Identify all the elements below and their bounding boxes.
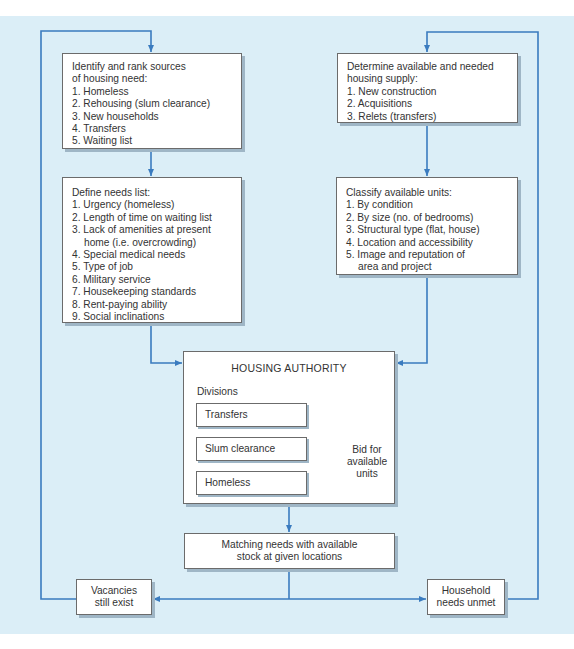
- classify-item: 2. By size (no. of bedrooms): [346, 212, 508, 224]
- unmet-line: Household: [428, 585, 504, 597]
- needs-heading: Define needs list:: [72, 187, 232, 199]
- needs-item: 7. Housekeeping standards: [72, 286, 232, 298]
- sources-item: 3. New households: [72, 111, 232, 123]
- needs-item: 5. Type of job: [72, 261, 232, 273]
- bid-label-line: units: [341, 468, 393, 480]
- matching-box: Matching needs with available stock at g…: [184, 533, 395, 569]
- housing-authority-title: HOUSING AUTHORITY: [184, 362, 394, 374]
- supply-item: 2. Acquisitions: [347, 98, 508, 110]
- classify-item: 3. Structural type (flat, house): [346, 224, 508, 236]
- vacancies-line: still exist: [77, 597, 151, 609]
- divisions-label: Divisions: [197, 386, 238, 398]
- needs-unmet-box: Household needs unmet: [427, 579, 505, 615]
- division-transfers: Transfers: [196, 403, 307, 427]
- housing-authority-box: HOUSING AUTHORITY Divisions Transfers Sl…: [183, 351, 395, 504]
- classify-heading: Classify available units:: [346, 187, 508, 199]
- bid-label: Bid for available units: [341, 444, 393, 480]
- classify-item: 4. Location and accessibility: [346, 237, 508, 249]
- matching-line: stock at given locations: [185, 551, 394, 563]
- vacancies-line: Vacancies: [77, 585, 151, 597]
- sources-item: 4. Transfers: [72, 123, 232, 135]
- classify-item: 5. Image and reputation of: [346, 249, 508, 261]
- needs-item: 4. Special medical needs: [72, 249, 232, 261]
- bid-label-line: available: [341, 456, 393, 468]
- supply-heading-1: Determine available and needed: [347, 61, 508, 73]
- classify-item: 1. By condition: [346, 199, 508, 211]
- needs-item-continued: home (i.e. overcrowding): [72, 237, 232, 249]
- needs-item: 1. Urgency (homeless): [72, 199, 232, 211]
- supply-heading-2: housing supply:: [347, 73, 508, 85]
- classify-units-box: Classify available units: 1. By conditio…: [336, 177, 518, 275]
- needs-item: 2. Length of time on waiting list: [72, 212, 232, 224]
- sources-item: 5. Waiting list: [72, 135, 232, 147]
- division-slum-clearance: Slum clearance: [196, 437, 307, 461]
- supply-item: 1. New construction: [347, 86, 508, 98]
- housing-supply-box: Determine available and needed housing s…: [337, 53, 518, 123]
- housing-need-sources-box: Identify and rank sources of housing nee…: [62, 53, 242, 149]
- sources-heading-2: of housing need:: [72, 73, 232, 85]
- needs-item: 3. Lack of amenities at present: [72, 224, 232, 236]
- supply-item: 3. Relets (transfers): [347, 111, 508, 123]
- vacancies-box: Vacancies still exist: [76, 579, 152, 615]
- bid-label-line: Bid for: [341, 444, 393, 456]
- sources-heading-1: Identify and rank sources: [72, 61, 232, 73]
- needs-item: 8. Rent-paying ability: [72, 299, 232, 311]
- needs-item: 6. Military service: [72, 274, 232, 286]
- matching-line: Matching needs with available: [185, 539, 394, 551]
- sources-item: 2. Rehousing (slum clearance): [72, 98, 232, 110]
- needs-list-box: Define needs list: 1. Urgency (homeless)…: [62, 177, 242, 323]
- division-homeless: Homeless: [196, 471, 307, 495]
- classify-item-continued: area and project: [346, 261, 508, 273]
- sources-item: 1. Homeless: [72, 86, 232, 98]
- unmet-line: needs unmet: [428, 597, 504, 609]
- needs-item: 9. Social inclinations: [72, 311, 232, 323]
